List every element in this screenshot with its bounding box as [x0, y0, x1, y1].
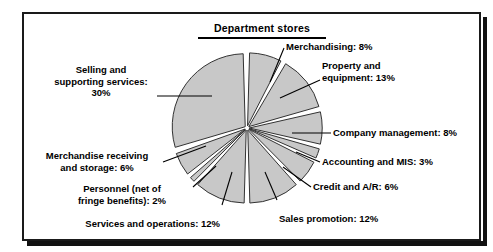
slice-label-company-management: Company management: 8%	[333, 127, 457, 139]
slice-label-credit-ar: Credit and A/R: 6%	[313, 181, 398, 193]
pie-chart-figure: Merchandising: 8%Property and equipment:…	[0, 0, 493, 252]
slice-label-accounting-mis: Accounting and MIS: 3%	[322, 156, 433, 168]
slice-label-merchandising: Merchandising: 8%	[286, 41, 373, 53]
chart-plot-area: Merchandising: 8%Property and equipment:…	[0, 0, 493, 252]
slice-label-services-operations: Services and operations: 12%	[42, 218, 220, 230]
slice-label-personnel: Personnel (net of fringe benefits): 2%	[56, 183, 188, 206]
slice-label-property-equipment: Property and equipment: 13%	[322, 60, 395, 83]
pie-slice-group: Merchandising: 8%Property and equipment:…	[172, 53, 322, 203]
slice-label-sales-promotion: Sales promotion: 12%	[279, 213, 378, 225]
page-title: Department stores	[192, 22, 332, 34]
title-underline	[198, 37, 326, 39]
slice-label-selling-supporting: Selling and supporting services: 30%	[42, 64, 160, 99]
slice-label-merchandise-receiving: Merchandise receiving and storage: 6%	[32, 150, 162, 173]
